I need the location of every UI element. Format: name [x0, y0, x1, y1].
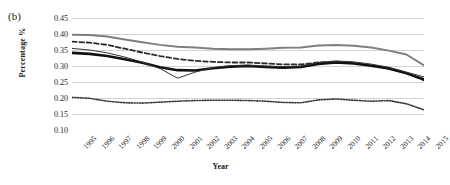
x-tick-label: 2003 — [222, 134, 239, 151]
y-axis-title: Percentage % — [18, 13, 27, 93]
x-tick-label: 2010 — [345, 134, 362, 151]
x-tick-label: 2009 — [328, 134, 345, 151]
y-tick-label: 0.10 — [34, 126, 68, 135]
x-tick-label: 1998 — [134, 134, 151, 151]
x-tick-label: 2004 — [240, 134, 257, 151]
y-tick-label: 0.25 — [34, 78, 68, 87]
x-tick-label: 2013 — [398, 134, 415, 151]
y-tick-label: 0.40 — [34, 30, 68, 39]
x-tick-label: 2008 — [310, 134, 327, 151]
x-tick-label: 1996 — [99, 134, 116, 151]
y-tick-label: 0.35 — [34, 46, 68, 55]
x-tick-label: 2014 — [416, 134, 433, 151]
y-tick-label: 0.15 — [34, 110, 68, 119]
x-axis-tick-labels: 1995199619971998199920002001200220032004… — [72, 132, 424, 166]
x-tick-label: 2006 — [275, 134, 292, 151]
series-line-black-dotted-lower — [72, 97, 424, 109]
x-tick-label: 2015 — [433, 134, 450, 151]
x-tick-label: 1997 — [117, 134, 134, 151]
y-tick-label: 0.45 — [34, 14, 68, 23]
x-tick-label: 2007 — [293, 134, 310, 151]
x-tick-label: 2000 — [169, 134, 186, 151]
x-tick-label: 2011 — [363, 134, 380, 151]
x-tick-label: 2001 — [187, 134, 204, 151]
x-tick-label: 2005 — [257, 134, 274, 151]
x-tick-label: 1999 — [152, 134, 169, 151]
y-tick-label: 0.30 — [34, 62, 68, 71]
line-chart-svg — [72, 18, 424, 130]
series-line-gray-solid-upper — [72, 35, 424, 66]
x-tick-label: 2002 — [205, 134, 222, 151]
y-tick-label: 0.20 — [34, 94, 68, 103]
x-tick-label: 1995 — [81, 134, 98, 151]
plot-area — [72, 18, 424, 130]
x-tick-label: 2012 — [381, 134, 398, 151]
